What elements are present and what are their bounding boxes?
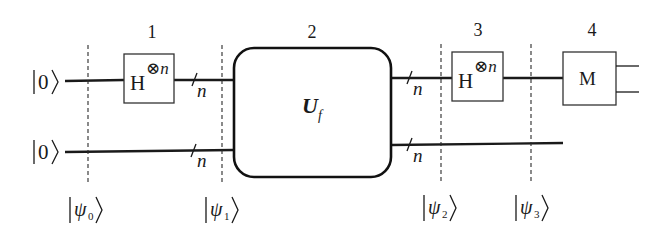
state-label-psi3: ψ 3 (516, 195, 548, 221)
hadamard-2-base: H (458, 69, 473, 93)
psi-symbol: ψ (520, 196, 533, 219)
bottom-wire-segment-1 (65, 150, 234, 152)
input-ket-top: 0 (34, 70, 58, 94)
step-label-2: 2 (308, 22, 317, 42)
ket-value: 0 (38, 70, 49, 94)
ket-value: 0 (38, 140, 49, 164)
ket-angle (450, 195, 456, 221)
top-wire-segment-1 (65, 80, 124, 81)
hadamard-1-superscript: ⊗n (146, 59, 169, 78)
psi-index: 2 (442, 208, 448, 220)
input-ket-bottom: 0 (34, 140, 58, 164)
ket-angle (96, 197, 102, 223)
ket-angle (232, 197, 238, 223)
psi-symbol: ψ (428, 196, 441, 219)
state-label-psi2: ψ 2 (424, 195, 456, 221)
n-label-bottom-right: n (413, 145, 423, 166)
n-label-top-left: n (197, 80, 207, 101)
hadamard-1-base: H (130, 71, 145, 95)
ket-angle (52, 140, 58, 164)
oracle-base: U (302, 93, 319, 118)
n-label-top-right: n (413, 78, 423, 99)
psi-index: 3 (534, 208, 540, 220)
quantum-circuit-diagram: H ⊗n U f H ⊗n M n n n n 1 2 3 4 0 0 ψ 0 (0, 0, 670, 236)
step-label-3: 3 (474, 20, 483, 40)
psi-index: 1 (224, 210, 230, 222)
psi-index: 0 (88, 210, 94, 222)
state-label-psi1: ψ 1 (206, 197, 238, 223)
step-label-4: 4 (588, 20, 597, 40)
ket-angle (542, 195, 548, 221)
psi-symbol: ψ (74, 198, 87, 221)
n-label-bottom-left: n (197, 150, 207, 171)
step-label-1: 1 (148, 22, 157, 42)
measurement-label: M (579, 68, 596, 89)
state-label-psi0: ψ 0 (70, 197, 102, 223)
hadamard-2-superscript: ⊗n (474, 57, 497, 76)
ket-angle (52, 70, 58, 94)
psi-symbol: ψ (210, 198, 223, 221)
